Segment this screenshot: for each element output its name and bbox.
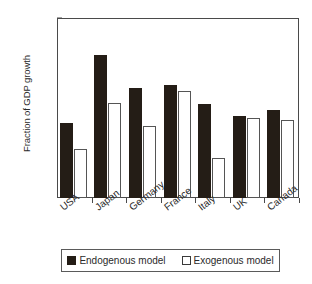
bar-france-exogenous <box>178 91 191 198</box>
bar-usa-endogenous <box>60 123 73 198</box>
bar-japan-endogenous <box>94 55 107 198</box>
bar-france-endogenous <box>164 85 177 198</box>
bar-italy-exogenous <box>212 158 225 198</box>
y-axis-title: Fraction of GDP growth <box>21 24 32 184</box>
x-tick-mark <box>92 198 93 203</box>
legend-swatch-hollow-square-icon <box>182 256 191 265</box>
legend-swatch-filled-square-icon <box>67 256 76 265</box>
x-tick-mark <box>161 198 162 203</box>
bar-chart-figure: Fraction of GDP growth 00.20.40.60.8 USA… <box>0 0 312 284</box>
x-tick-mark <box>230 198 231 203</box>
bar-usa-exogenous <box>74 149 87 198</box>
x-label-uk: UK <box>231 195 249 212</box>
legend-item-endogenous: Endogenous model <box>67 255 165 266</box>
bar-uk-endogenous <box>233 116 246 198</box>
bar-japan-exogenous <box>108 103 121 198</box>
bar-italy-endogenous <box>198 104 211 198</box>
legend-label-endogenous: Endogenous model <box>79 255 165 266</box>
legend-label-exogenous: Exogenous model <box>194 255 274 266</box>
legend-item-exogenous: Exogenous model <box>182 255 274 266</box>
bars-layer <box>57 18 299 198</box>
bar-canada-endogenous <box>267 110 280 198</box>
bar-uk-exogenous <box>247 118 260 198</box>
chart-legend: Endogenous model Exogenous model <box>61 249 280 272</box>
bar-germany-endogenous <box>129 88 142 198</box>
x-tick-mark <box>299 198 300 203</box>
